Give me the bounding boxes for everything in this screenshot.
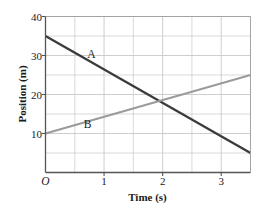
x-tick-label: 2	[151, 175, 175, 188]
x-tick-label: 1	[92, 175, 116, 188]
x-tick-label-origin: O	[34, 175, 58, 188]
x-axis-title: Time (s)	[45, 191, 250, 203]
x-tick-label: 3	[209, 175, 233, 188]
x-axis-tick-labels: O 1 2 3	[0, 0, 266, 216]
series-label-a: A	[87, 48, 95, 60]
series-label-b: B	[84, 118, 92, 130]
position-time-chart: Position (m) 40 30 20 10 O 1 2 3 Time (s…	[0, 0, 266, 216]
